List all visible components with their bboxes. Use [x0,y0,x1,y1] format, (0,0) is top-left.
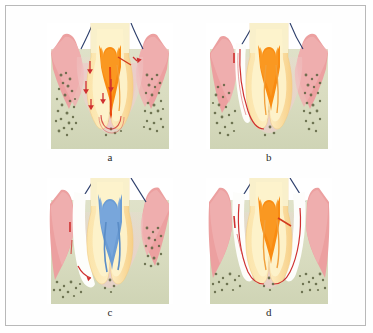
panel-d-illustration [206,178,332,304]
tooth-diagram-d [206,178,332,304]
panel-c-label: c [47,306,173,318]
figure-frame: a [5,5,366,326]
panel-b-illustration [206,23,332,149]
panel-d-label: d [206,306,332,318]
lesion-mark-left-d [234,216,235,228]
figure-panel-a: a [47,23,173,173]
panel-a-label: a [47,151,173,163]
tooth-diagram-c [47,178,173,304]
tooth-diagram-b [206,23,332,149]
figure-panel-c: c [47,178,173,328]
tooth-diagram-a [47,23,173,149]
panel-a-illustration [47,23,173,149]
figure-panel-d: d [206,178,332,328]
panel-c-illustration [47,178,173,304]
figure-panel-b: b [206,23,332,173]
panel-b-label: b [206,151,332,163]
